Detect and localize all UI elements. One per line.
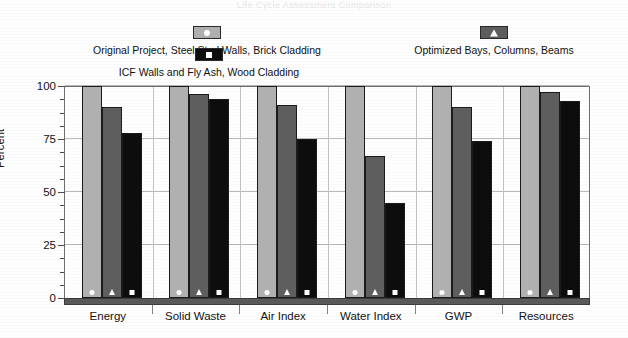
bar-group (239, 86, 327, 298)
y-tick-minor (60, 219, 64, 220)
bar (209, 99, 229, 298)
bar (432, 86, 452, 298)
y-tick-minor (60, 232, 64, 233)
y-tick-major (58, 298, 65, 299)
chart-legend: Original Project, Steel Stud Walls, Bric… (0, 10, 628, 72)
bar (385, 203, 405, 298)
y-tick-minor (60, 285, 64, 286)
y-tick-minor (60, 205, 64, 206)
circle-marker-icon (528, 290, 533, 295)
x-tick-label: GWP (415, 310, 503, 322)
triangle-marker-icon (459, 289, 465, 295)
triangle-marker-icon (284, 289, 290, 295)
bar (122, 133, 142, 298)
circle-marker-icon (440, 290, 445, 295)
y-tick-major (58, 86, 65, 87)
square-marker-icon (129, 290, 134, 295)
circle-marker-icon (204, 30, 210, 36)
bar-group (327, 86, 415, 298)
x-axis-baseline (64, 298, 590, 305)
x-tick-label: Solid Waste (152, 310, 240, 322)
square-marker-icon (206, 52, 212, 58)
legend-label-optimized-bays: Optimized Bays, Columns, Beams (414, 44, 573, 56)
triangle-marker-icon (109, 289, 115, 295)
bar (452, 107, 472, 298)
y-tick-minor (60, 179, 64, 180)
triangle-marker-icon (372, 289, 378, 295)
y-tick-label: 0 (22, 293, 56, 303)
bar (345, 86, 365, 298)
y-tick-minor (60, 166, 64, 167)
bar (540, 92, 560, 298)
y-tick-minor (60, 152, 64, 153)
x-tick-label: Energy (64, 310, 152, 322)
bar (520, 86, 540, 298)
bar (297, 139, 317, 298)
cropped-title-fragment: Life Cycle Assessment Comparison (0, 0, 628, 10)
bar (169, 86, 189, 298)
y-tick-label: 50 (22, 187, 56, 197)
y-tick-minor (60, 126, 64, 127)
bar (472, 141, 492, 298)
bar-groups (64, 86, 590, 298)
bar (257, 86, 277, 298)
square-marker-icon (392, 290, 397, 295)
y-tick-label: 100 (22, 81, 56, 91)
circle-marker-icon (177, 290, 182, 295)
y-tick-minor (60, 272, 64, 273)
bar-group (64, 86, 152, 298)
circle-marker-icon (89, 290, 94, 295)
circle-marker-icon (265, 290, 270, 295)
y-tick-minor (60, 258, 64, 259)
y-axis-title: Percent (0, 129, 6, 168)
legend-entry-icf-walls: ICF Walls and Fly Ash, Wood Cladding (84, 48, 334, 80)
y-tick-major (58, 139, 65, 140)
legend-entry-optimized-bays: Optimized Bays, Columns, Beams (360, 26, 628, 58)
legend-label-icf-walls: ICF Walls and Fly Ash, Wood Cladding (119, 66, 299, 78)
triangle-marker-icon (196, 289, 202, 295)
legend-swatch-triangle-icon (480, 26, 508, 39)
bar (189, 94, 209, 298)
bar (365, 156, 385, 298)
x-tick-label: Air Index (239, 310, 327, 322)
x-tick-label: Resources (502, 310, 590, 322)
y-tick-label: 75 (22, 134, 56, 144)
y-tick-major (58, 192, 65, 193)
square-marker-icon (480, 290, 485, 295)
x-tick-label: Water Index (327, 310, 415, 322)
square-marker-icon (305, 290, 310, 295)
y-tick-major (58, 245, 65, 246)
bar-group (415, 86, 503, 298)
square-marker-icon (568, 290, 573, 295)
bar (277, 105, 297, 298)
y-tick-minor (60, 99, 64, 100)
bar-group (502, 86, 590, 298)
bar (102, 107, 122, 298)
bar (82, 86, 102, 298)
bar (560, 101, 580, 298)
y-tick-minor (60, 113, 64, 114)
y-tick-label: 25 (22, 240, 56, 250)
triangle-marker-icon (547, 289, 553, 295)
circle-marker-icon (352, 290, 357, 295)
square-marker-icon (217, 290, 222, 295)
legend-swatch-circle-icon (193, 26, 221, 39)
triangle-marker-icon (490, 29, 498, 36)
bar-group (152, 86, 240, 298)
legend-swatch-square-icon (195, 48, 223, 61)
